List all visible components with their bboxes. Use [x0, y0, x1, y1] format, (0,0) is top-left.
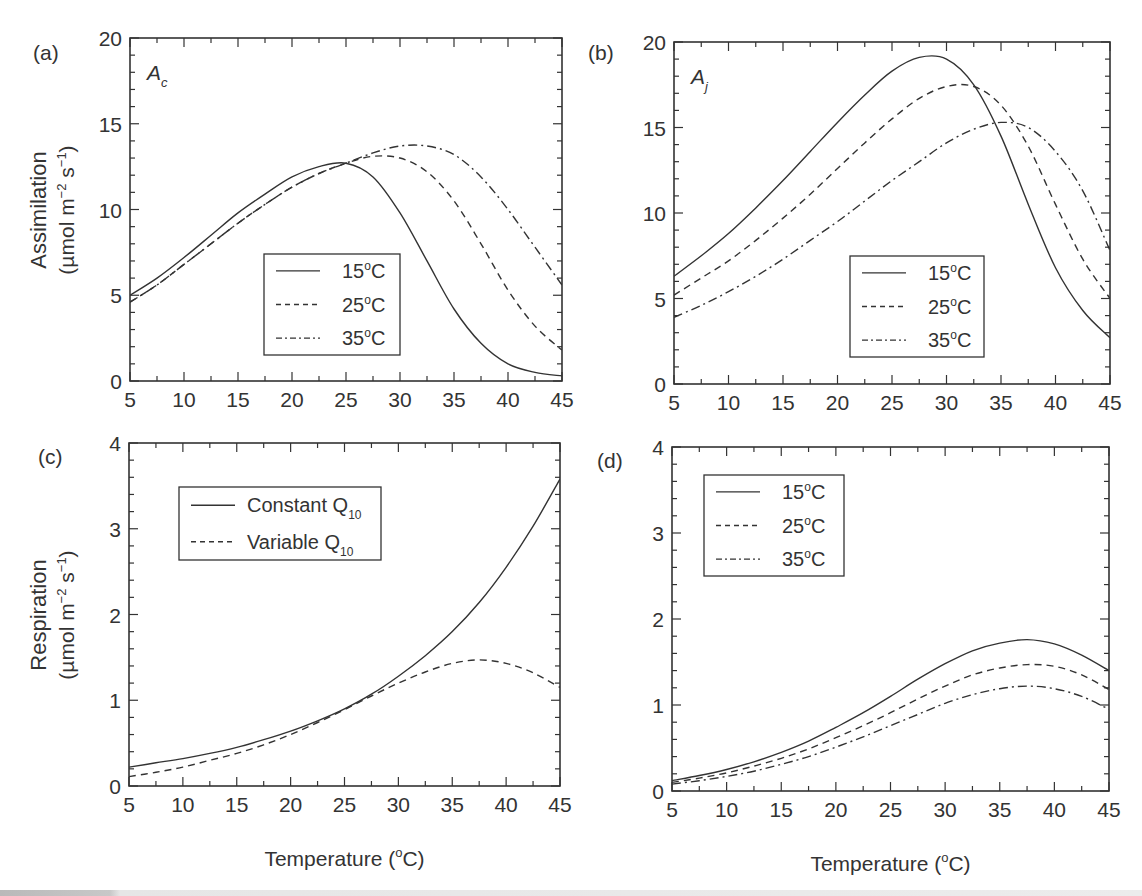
x-tick-label: 40: [496, 388, 519, 411]
x-tick-label: 25: [879, 798, 902, 821]
x-tick-label: 45: [550, 388, 573, 411]
y-tick-label: 1: [109, 689, 121, 712]
x-tick-label: 5: [124, 388, 136, 411]
panel-label: (d): [597, 449, 623, 472]
series-line: [672, 686, 1109, 784]
legend: Constant Q10Variable Q10: [179, 487, 381, 560]
legend-label: 25oC: [928, 295, 971, 318]
panel-label: (b): [588, 41, 614, 64]
x-tick-label: 10: [717, 391, 740, 414]
x-tick-label: 45: [548, 793, 571, 816]
legend-label: 25oC: [342, 293, 385, 316]
y-tick-label: 10: [99, 199, 122, 222]
svg-text:(µmol m−2 s−1): (µmol m−2 s−1): [54, 145, 78, 274]
y-tick-label: 4: [109, 432, 121, 455]
x-tick-label: 10: [171, 793, 194, 816]
y-tick-label: 4: [652, 436, 664, 459]
x-tick-label: 35: [441, 793, 464, 816]
x-tick-label: 30: [935, 391, 958, 414]
svg-text:Respiration: Respiration: [26, 559, 51, 670]
x-tick-label: 10: [172, 388, 195, 411]
series-group: [672, 640, 1109, 785]
x-tick-label: 25: [333, 793, 356, 816]
x-tick-label: 25: [334, 388, 357, 411]
legend: 15oC25oC35oC: [264, 254, 400, 355]
y-axis-title-respiration: Respiration(µmol m−2 s−1): [26, 550, 78, 679]
y-tick-label: 0: [109, 775, 121, 798]
y-tick-label: 0: [652, 780, 664, 803]
x-tick-label: 35: [442, 388, 465, 411]
legend-label: 15oC: [782, 480, 825, 503]
x-axis-title: Temperature (oC): [810, 850, 970, 875]
x-tick-label: 20: [279, 793, 302, 816]
x-tick-label: 5: [668, 391, 680, 414]
x-tick-label: 45: [1098, 391, 1121, 414]
legend-label: 15oC: [342, 259, 385, 282]
legend-label: 25oC: [782, 514, 825, 537]
x-axis-title: Temperature (oC): [264, 845, 424, 870]
legend-label: 35oC: [342, 326, 385, 349]
x-tick-label: 35: [988, 798, 1011, 821]
x-tick-label: 5: [123, 793, 135, 816]
x-tick-label: 30: [387, 793, 410, 816]
curve-annotation: Aj: [689, 65, 709, 94]
x-tick-label: 35: [989, 391, 1012, 414]
svg-text:(µmol m−2 s−1): (µmol m−2 s−1): [54, 550, 78, 679]
y-tick-label: 20: [643, 31, 666, 54]
x-tick-label: 30: [388, 388, 411, 411]
curve-annotation: Ac: [145, 61, 168, 90]
y-tick-label: 2: [652, 608, 664, 631]
x-tick-label: 15: [770, 798, 793, 821]
panel-d: (d)510152025303540450123415oC25oC35oCTem…: [597, 436, 1121, 875]
bottom-strip: [0, 890, 1142, 896]
x-tick-label: 40: [1044, 391, 1067, 414]
y-tick-label: 10: [643, 202, 666, 225]
figure: (a)5101520253035404505101520Ac15oC25oC35…: [0, 0, 1142, 896]
y-tick-label: 3: [109, 518, 121, 541]
x-tick-label: 20: [824, 798, 847, 821]
x-tick-label: 25: [880, 391, 903, 414]
legend: 15oC25oC35oC: [704, 475, 844, 576]
svg-text:Assimilation: Assimilation: [26, 151, 51, 268]
x-tick-label: 20: [826, 391, 849, 414]
x-tick-label: 15: [225, 793, 248, 816]
panel-a: (a)5101520253035404505101520Ac15oC25oC35…: [33, 27, 574, 411]
legend-label: 35oC: [928, 328, 971, 351]
x-axis: 51015202530354045: [668, 42, 1122, 414]
x-tick-label: 40: [1043, 798, 1066, 821]
x-tick-label: 30: [933, 798, 956, 821]
x-tick-label: 45: [1097, 798, 1120, 821]
x-tick-label: 15: [771, 391, 794, 414]
panel-b: (b)5101520253035404505101520Aj15oC25oC35…: [588, 31, 1122, 414]
y-tick-label: 20: [99, 27, 122, 50]
x-tick-label: 15: [226, 388, 249, 411]
panel-label: (c): [38, 445, 63, 468]
y-axis-title-assimilation: Assimilation(µmol m−2 s−1): [26, 145, 78, 274]
series-line: [672, 640, 1109, 781]
x-tick-label: 10: [715, 798, 738, 821]
y-tick-label: 5: [110, 284, 122, 307]
x-tick-label: 5: [666, 798, 678, 821]
y-tick-label: 2: [109, 604, 121, 627]
panel-c: (c)5101520253035404501234Constant Q10Var…: [38, 432, 572, 870]
panel-label: (a): [33, 41, 59, 64]
legend-label: 35oC: [782, 547, 825, 570]
legend: 15oC25oC35oC: [850, 256, 984, 357]
legend-label: 15oC: [928, 261, 971, 284]
series-line: [672, 664, 1109, 782]
y-tick-label: 0: [654, 373, 666, 396]
y-tick-label: 3: [652, 522, 664, 545]
y-tick-label: 5: [654, 288, 666, 311]
y-tick-label: 1: [652, 694, 664, 717]
y-tick-label: 0: [110, 370, 122, 393]
x-tick-label: 20: [280, 388, 303, 411]
y-tick-label: 15: [643, 117, 666, 140]
y-tick-label: 15: [99, 113, 122, 136]
series-line: [129, 660, 560, 777]
x-tick-label: 40: [494, 793, 517, 816]
